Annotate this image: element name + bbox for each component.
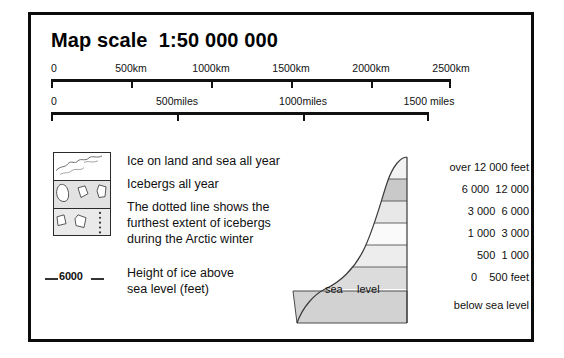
scale-tick — [427, 112, 429, 121]
altitude-band-label: below sea level — [454, 299, 529, 311]
altitude-band — [289, 201, 407, 224]
sea-label: sea — [325, 283, 343, 295]
scale-bar-km-labels: 0500km1000km1500km2000km2500km — [51, 62, 471, 76]
scale-tick — [131, 79, 133, 88]
scale-tick-label: 2500km — [432, 62, 469, 74]
altitude-band-labels: over 12 000 feet6 000 12 0003 000 6 0001… — [407, 143, 529, 333]
scale-tick — [211, 79, 213, 88]
scale-tick — [51, 112, 53, 121]
altitude-band — [289, 179, 407, 202]
contour-dash-left — [45, 278, 58, 280]
legend-item-ice-on-land: Ice on land and sea all year — [127, 153, 280, 169]
scale-bar-km: 0500km1000km1500km2000km2500km — [51, 62, 471, 92]
altitude-band — [289, 223, 407, 246]
scale-bar-miles-line — [51, 112, 429, 115]
page-title: Map scale 1:50 000 000 — [51, 29, 278, 52]
scale-tick — [371, 79, 373, 88]
scale-tick-label: 1000miles — [279, 95, 327, 107]
level-label: level — [357, 283, 380, 295]
swatch-ice-on-land — [54, 153, 110, 180]
contour-value: 6000 — [59, 270, 83, 282]
legend-item-dotted-line-row2: furthest extent of icebergs — [127, 215, 271, 231]
swatch-icebergs — [54, 180, 110, 207]
scale-bar-miles-labels: 0500miles1000miles1500 miles — [51, 95, 471, 109]
legend-frame: Map scale 1:50 000 000 0500km1000km1500k… — [28, 12, 534, 342]
scale-tick-label: 0 — [51, 95, 57, 107]
scale-tick-label: 2000km — [352, 62, 389, 74]
scale-tick-label: 0 — [51, 62, 57, 74]
altitude-band-label: over 12 000 feet — [449, 161, 529, 173]
legend-item-dotted-line-row1: The dotted line shows the — [127, 199, 271, 215]
scale-bar-miles: 0500miles1000miles1500 miles — [51, 95, 471, 125]
legend-item-icebergs: Icebergs all year — [127, 176, 219, 192]
scale-tick-label: 500miles — [156, 95, 198, 107]
swatch-iceberg-winter-limit — [54, 208, 110, 235]
altitude-band-label: 0 500 feet — [471, 271, 529, 283]
scale-tick-label: 1000km — [192, 62, 229, 74]
scale-tick — [51, 79, 53, 88]
scale-tick — [449, 79, 451, 88]
altitude-band-label: 1 000 3 000 — [468, 227, 529, 239]
altitude-band-label: 500 1 000 — [477, 249, 529, 261]
altitude-band-label: 3 000 6 000 — [468, 205, 529, 217]
legend-item-dotted-line: The dotted line shows the furthest exten… — [127, 199, 271, 247]
legend-item-dotted-line-row3: during the Arctic winter — [127, 231, 271, 247]
scale-tick — [303, 112, 305, 121]
scale-tick-label: 1500 miles — [404, 95, 455, 107]
altitude-band-label: 6 000 12 000 — [462, 183, 529, 195]
altitude-profile: sea level over 12 000 feet6 000 12 0003 … — [289, 143, 529, 333]
scale-bar-km-line — [51, 79, 451, 82]
scale-tick-label: 1500km — [272, 62, 309, 74]
contour-dash-right — [91, 278, 104, 280]
altitude-band — [289, 245, 407, 268]
altitude-band — [289, 267, 407, 290]
scale-tick — [291, 79, 293, 88]
legend-item-height: Height of ice above sea level (feet) — [127, 265, 234, 297]
contour-sample: 6000 — [45, 270, 119, 286]
legend-item-height-row2: sea level (feet) — [127, 281, 234, 297]
scale-tick-label: 500km — [115, 62, 147, 74]
legend-item-height-row1: Height of ice above — [127, 265, 234, 281]
legend-swatch-box — [53, 152, 111, 236]
scale-tick — [177, 112, 179, 121]
